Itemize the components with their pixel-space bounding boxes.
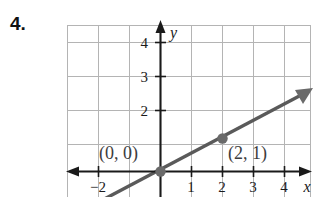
point-marker-2-1 [217, 133, 227, 143]
x-tick-label-3: 3 [249, 179, 257, 195]
x-axis [66, 167, 312, 177]
x-tick-label-1: 1 [187, 179, 195, 195]
x-tick-label-4: 4 [280, 179, 288, 195]
x-axis-variable-label: x [302, 178, 310, 195]
point-marker-origin [155, 166, 165, 176]
y-axis-up-arrow-icon [156, 20, 166, 33]
y-tick-label-2: 2 [141, 103, 149, 119]
graph-figure: 4 3 2 −2 1 2 3 4 x y (0, 0) (2, 1) [0, 0, 327, 197]
second-point-label: (2, 1) [228, 143, 267, 164]
y-tick-label-4: 4 [141, 35, 149, 51]
x-tick-label-neg2: −2 [90, 179, 106, 195]
figure-page: 4. [0, 0, 327, 197]
horizontal-grid-lines [67, 26, 311, 145]
coordinate-plane-svg: 4 3 2 −2 1 2 3 4 x y (0, 0) (2, 1) [0, 0, 327, 197]
x-tick-label-2: 2 [218, 179, 226, 195]
origin-point-label: (0, 0) [99, 143, 138, 164]
y-axis-variable-label: y [168, 24, 178, 42]
y-tick-label-3: 3 [141, 69, 149, 85]
